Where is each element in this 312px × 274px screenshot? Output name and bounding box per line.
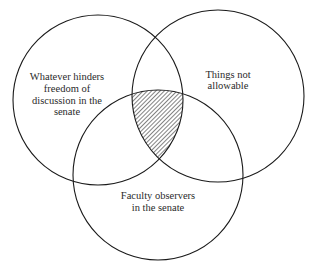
label-left-line-1: Whatever hinders [30,71,104,82]
shaded-region [132,10,304,182]
venn-diagram: Whatever hinders freedom of discussion i… [0,0,312,274]
label-bottom: Faculty observers in the senate [121,190,195,213]
label-right-line-2: allowable [208,80,249,91]
label-right: Things not allowable [205,69,250,91]
label-left-line-4: senate [54,106,81,117]
label-left-line-2: freedom of [44,83,91,94]
label-left: Whatever hinders freedom of discussion i… [30,71,104,117]
label-right-line-1: Things not [205,69,250,80]
label-bottom-line-1: Faculty observers [121,190,195,201]
label-left-line-3: discussion in the [32,95,102,106]
label-bottom-line-2: in the senate [132,202,185,213]
